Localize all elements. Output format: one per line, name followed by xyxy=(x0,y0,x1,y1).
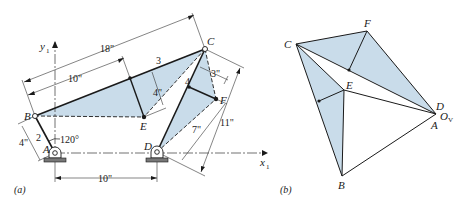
svg-text:10": 10" xyxy=(98,173,112,184)
joint-b xyxy=(33,114,38,119)
svg-text:y: y xyxy=(39,40,45,52)
svg-text:A: A xyxy=(42,143,50,155)
figure-a: y 1 x 1 B C E F A D 2 3 4 18" 10" 4" 4" … xyxy=(14,13,270,196)
svg-text:7": 7" xyxy=(192,124,201,135)
svg-text:1: 1 xyxy=(46,47,50,55)
figure-b: C F E D O V A B (b) xyxy=(280,17,453,196)
y1-arrow-icon xyxy=(52,41,58,48)
svg-text:C: C xyxy=(207,35,215,47)
svg-text:E: E xyxy=(345,79,353,91)
svg-text:F: F xyxy=(219,94,227,106)
joint-f xyxy=(214,97,218,101)
svg-text:4": 4" xyxy=(153,87,162,98)
svg-text:1: 1 xyxy=(266,163,270,171)
svg-text:10": 10" xyxy=(68,73,82,84)
svg-text:120°: 120° xyxy=(60,134,79,145)
svg-text:B: B xyxy=(24,110,31,122)
svg-text:B: B xyxy=(338,179,345,191)
svg-text:D: D xyxy=(143,140,152,152)
svg-text:(a): (a) xyxy=(14,184,26,196)
mechanism-diagram: y 1 x 1 B C E F A D 2 3 4 18" 10" 4" 4" … xyxy=(0,0,470,203)
svg-text:4: 4 xyxy=(185,76,190,87)
svg-text:2: 2 xyxy=(36,132,41,143)
joint-e xyxy=(142,115,146,119)
svg-text:x: x xyxy=(259,156,265,168)
joint-c xyxy=(203,47,208,52)
svg-text:18": 18" xyxy=(100,43,114,54)
svg-text:E: E xyxy=(139,120,147,132)
svg-text:V: V xyxy=(448,116,453,124)
svg-text:3: 3 xyxy=(156,55,161,66)
svg-text:O: O xyxy=(440,110,448,122)
svg-text:3": 3" xyxy=(211,68,220,79)
svg-text:(b): (b) xyxy=(280,184,292,196)
svg-text:F: F xyxy=(363,17,371,29)
svg-text:A: A xyxy=(430,119,438,131)
angle-arc xyxy=(49,139,60,141)
svg-text:C: C xyxy=(284,38,292,50)
svg-text:11": 11" xyxy=(220,117,234,128)
svg-text:4": 4" xyxy=(19,137,28,148)
